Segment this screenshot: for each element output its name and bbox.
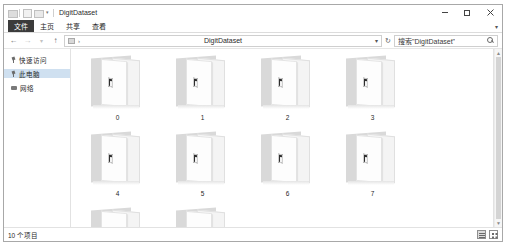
search-input[interactable]: 搜索"DigitDataset"	[394, 35, 498, 47]
desktop-background: ▾ DigitDataset 文件 主页 共享 查看	[0, 0, 510, 246]
folder-front-icon	[101, 211, 127, 227]
chevron-down-icon[interactable]: ▾	[45, 10, 50, 15]
window-controls	[434, 5, 502, 20]
folder-front-icon	[101, 135, 127, 183]
scroll-down-icon[interactable]: ▼	[495, 219, 502, 227]
folder-thumbnail	[172, 207, 234, 227]
details-view-toggle[interactable]	[477, 230, 486, 239]
ribbon-tabs: 文件 主页 共享 查看 ▾	[4, 20, 502, 33]
digit-preview-icon	[278, 154, 283, 163]
path-folder-icon	[68, 38, 75, 44]
folder-thumbnail	[87, 131, 149, 189]
folder-item[interactable]: 2	[245, 55, 330, 131]
folder-shadow	[178, 181, 224, 185]
navigation-pane: 快速访问 此电脑 网络	[4, 49, 71, 227]
digit-preview-icon	[108, 154, 113, 163]
folder-label: 6	[286, 190, 290, 197]
folder-shadow	[263, 181, 309, 185]
folder-front-icon	[356, 135, 382, 183]
close-button[interactable]	[478, 5, 502, 20]
ribbon-right-controls: ▾	[495, 20, 502, 32]
sidebar-item-label: 此电脑	[19, 69, 40, 79]
sidebar-item-network[interactable]: 网络	[4, 83, 70, 92]
pin-icon	[11, 57, 16, 63]
folder-label: 4	[116, 190, 120, 197]
path-value: DigitDataset	[65, 37, 381, 44]
folder-item[interactable]: 5	[160, 131, 245, 207]
digit-preview-icon	[363, 78, 368, 87]
chevron-down-icon[interactable]: ▾	[375, 37, 378, 44]
folder-shadow	[348, 181, 394, 185]
folder-grid: 0 1	[71, 49, 493, 227]
folder-shadow	[348, 105, 394, 109]
refresh-icon[interactable]: ↻	[385, 37, 391, 45]
quick-access-toolbar: ▾	[8, 9, 54, 17]
path-input[interactable]: › DigitDataset ▾	[64, 35, 382, 47]
folder-item[interactable]: 8	[75, 207, 160, 227]
vertical-scrollbar[interactable]: ▲ ▼	[494, 49, 502, 227]
folder-thumbnail	[172, 55, 234, 113]
digit-preview-icon	[193, 78, 198, 87]
ribbon-expand-icon[interactable]: ▾	[495, 23, 498, 30]
folder-front-icon	[271, 135, 297, 183]
tab-file[interactable]: 文件	[8, 20, 34, 32]
pin-icon	[11, 71, 16, 77]
large-icons-view-toggle[interactable]	[489, 230, 498, 239]
path-separator-icon: ›	[78, 38, 80, 44]
sidebar-item-label: 快速访问	[19, 55, 47, 65]
folder-front-icon	[101, 59, 127, 107]
folder-item[interactable]: 9	[160, 207, 245, 227]
scroll-up-icon[interactable]: ▲	[495, 49, 502, 57]
maximize-button[interactable]	[456, 5, 478, 20]
tab-view[interactable]: 查看	[86, 20, 112, 32]
folder-thumbnail	[342, 131, 404, 189]
up-arrow-icon[interactable]: ↑	[50, 35, 61, 47]
scrollbar-thumb[interactable]	[496, 57, 501, 219]
network-icon	[11, 85, 17, 91]
folder-front-icon	[356, 59, 382, 107]
folder-label: 2	[286, 114, 290, 121]
recent-chevron-icon[interactable]: ▾	[36, 35, 47, 47]
window-body: 快速访问 此电脑 网络	[4, 49, 502, 227]
sidebar-item-label: 网络	[20, 83, 34, 93]
search-icon	[487, 37, 494, 44]
sidebar-item-this-pc[interactable]: 此电脑	[4, 69, 70, 78]
forward-arrow-icon[interactable]: →	[22, 35, 33, 47]
toolbar-divider-2	[53, 9, 54, 17]
file-list-pane[interactable]: 0 1	[71, 49, 494, 227]
window-title: DigitDataset	[59, 9, 97, 16]
folder-front-icon	[186, 59, 212, 107]
file-explorer-window: ▾ DigitDataset 文件 主页 共享 查看	[3, 4, 503, 242]
properties-icon[interactable]	[23, 9, 31, 17]
title-bar: ▾ DigitDataset	[4, 5, 502, 20]
folder-item[interactable]: 1	[160, 55, 245, 131]
folder-item[interactable]: 6	[245, 131, 330, 207]
toolbar-divider	[19, 9, 20, 17]
digit-preview-icon	[363, 154, 368, 163]
tab-home[interactable]: 主页	[34, 20, 60, 32]
tab-share[interactable]: 共享	[60, 20, 86, 32]
new-folder-icon[interactable]	[34, 9, 42, 17]
address-bar: ← → ▾ ↑ › DigitDataset ▾ ↻ 搜索"DigitDatas…	[4, 33, 502, 49]
folder-label: 1	[201, 114, 205, 121]
folder-item[interactable]: 0	[75, 55, 160, 131]
sidebar-item-quick-access[interactable]: 快速访问	[4, 55, 70, 64]
explorer-icon[interactable]	[8, 9, 16, 17]
search-value: 搜索"DigitDataset"	[398, 36, 455, 46]
back-arrow-icon[interactable]: ←	[8, 35, 19, 47]
folder-item[interactable]: 7	[330, 131, 415, 207]
item-count-label: 10 个项目	[8, 230, 38, 240]
folder-item[interactable]: 3	[330, 55, 415, 131]
folder-thumbnail	[87, 55, 149, 113]
folder-front-icon	[186, 135, 212, 183]
folder-label: 7	[371, 190, 375, 197]
minimize-button[interactable]	[434, 5, 456, 20]
folder-item[interactable]: 4	[75, 131, 160, 207]
folder-shadow	[93, 181, 139, 185]
folder-thumbnail	[172, 131, 234, 189]
folder-shadow	[93, 105, 139, 109]
folder-label: 5	[201, 190, 205, 197]
folder-thumbnail	[342, 55, 404, 113]
digit-preview-icon	[108, 78, 113, 87]
digit-preview-icon	[278, 78, 283, 87]
